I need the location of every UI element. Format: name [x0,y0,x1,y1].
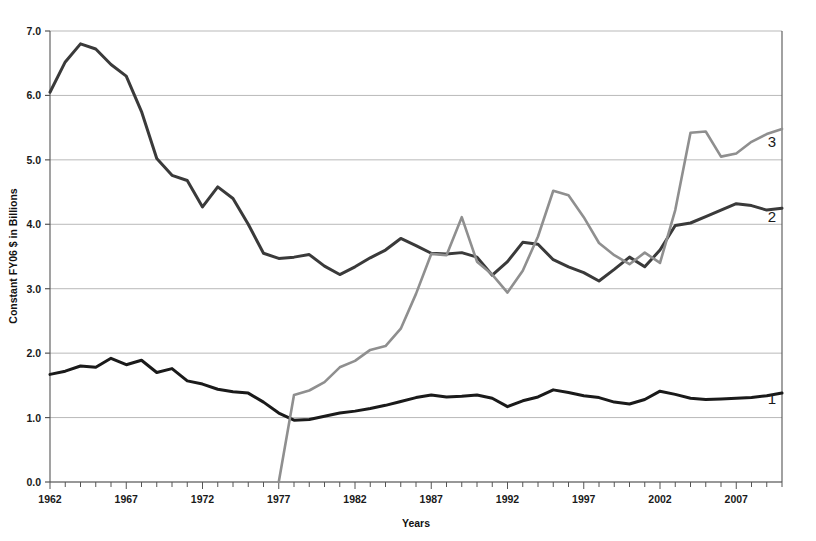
x-axis-tick-label: 1997 [572,493,596,505]
series-label-2: 2 [768,208,776,225]
x-axis-title: Years [402,517,430,529]
axis-lines-group [50,31,782,482]
x-axis-tick-label: 1977 [267,493,291,505]
series-line-2 [50,44,782,281]
y-axis-tick-label: 6.0 [26,89,41,101]
x-axis-tick-label: 1982 [343,493,367,505]
y-axis-tick-label: 1.0 [26,412,41,424]
y-axis-tick-label: 7.0 [26,25,41,37]
x-axis-tick-label: 1962 [38,493,62,505]
y-axis-tick-label: 4.0 [26,218,41,230]
data-series-group [50,44,782,482]
x-axis-tick-label: 1992 [496,493,520,505]
x-axis-ticks-group: 1962196719721977198219871992199720022007 [38,482,782,505]
series-label-1: 1 [768,390,776,407]
y-axis-tick-label: 2.0 [26,347,41,359]
chart-container: 0.01.02.03.04.05.06.07.0 196219671972197… [0,0,816,541]
line-chart-plot: 0.01.02.03.04.05.06.07.0 196219671972197… [0,0,816,541]
x-axis-tick-label: 1967 [115,493,139,505]
y-axis-title: Constant FY06 $ in Billions [7,188,19,324]
x-axis-tick-label: 1987 [420,493,444,505]
x-axis-tick-label: 2007 [725,493,749,505]
x-axis-tick-label: 2002 [648,493,672,505]
gridlines-group [50,31,782,482]
series-labels-group: 321 [768,133,776,407]
series-line-1 [50,358,782,420]
series-label-3: 3 [768,133,776,150]
series-line-3 [279,129,782,482]
x-axis-tick-label: 1972 [191,493,215,505]
y-axis-tick-label: 3.0 [26,283,41,295]
y-axis-tick-label: 0.0 [26,476,41,488]
y-axis-ticks-group: 0.01.02.03.04.05.06.07.0 [26,25,50,488]
y-axis-tick-label: 5.0 [26,154,41,166]
